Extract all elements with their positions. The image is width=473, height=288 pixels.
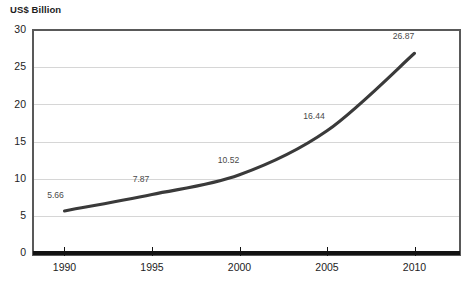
y-axis-tick-label: 0: [20, 246, 26, 258]
x-axis-tick-label: 2005: [315, 261, 339, 273]
y-axis-tick-label: 5: [20, 209, 26, 221]
data-point-labels: 5.667.8710.5216.4426.87: [47, 31, 414, 200]
y-axis-tick-label: 15: [14, 135, 26, 147]
line-chart: US$ Billion 051015202530 5.667.8710.5216…: [0, 0, 473, 288]
data-point-label: 10.52: [218, 155, 240, 165]
y-axis-tick-labels: 051015202530: [14, 23, 26, 258]
data-point-label: 5.66: [47, 190, 64, 200]
data-point-label: 7.87: [133, 174, 150, 184]
data-series-line: [65, 53, 415, 211]
data-point-label: 16.44: [303, 111, 325, 121]
y-axis-tick-label: 10: [14, 172, 26, 184]
gridlines: [33, 31, 460, 217]
y-axis-tick-label: 20: [14, 98, 26, 110]
data-point-label: 26.87: [393, 31, 415, 41]
x-axis-tick-label: 1990: [53, 261, 77, 273]
x-axis-tick-labels: 19901995200020052010: [53, 261, 427, 273]
x-axis-tick-label: 1995: [140, 261, 164, 273]
y-axis-tick-label: 30: [14, 23, 26, 35]
y-axis-tick-label: 25: [14, 60, 26, 72]
x-axis-tick-label: 2000: [228, 261, 252, 273]
chart-canvas: 051015202530 5.667.8710.5216.4426.87 199…: [0, 0, 473, 288]
x-axis-tick-label: 2010: [403, 261, 427, 273]
